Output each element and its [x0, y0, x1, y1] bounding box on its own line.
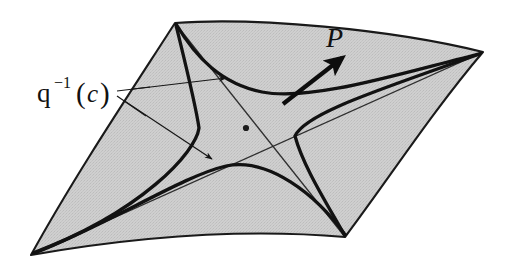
- preimage-label-argument: c: [87, 80, 98, 107]
- saddle-surface-figure: q −1 ( c ) P: [0, 0, 511, 271]
- saddle-surface: [31, 21, 483, 255]
- vector-label: P: [325, 22, 343, 53]
- preimage-label-base: q: [37, 78, 51, 108]
- preimage-label: q −1 ( c ): [37, 74, 110, 110]
- figure-container: q −1 ( c ) P: [0, 0, 511, 271]
- preimage-label-superscript: −1: [54, 74, 71, 91]
- preimage-label-close-paren: ): [100, 77, 110, 110]
- preimage-label-open-paren: (: [76, 77, 86, 110]
- saddle-point-marker: [243, 125, 249, 131]
